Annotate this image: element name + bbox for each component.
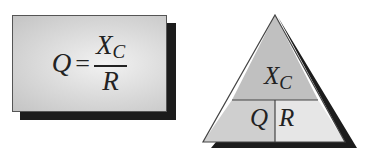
triangle-top-subscript: C (279, 72, 292, 93)
triangle-bottom-left-label: Q (250, 104, 268, 132)
formula-triangle (0, 0, 373, 155)
triangle-top-label: XC (264, 62, 292, 94)
triangle-bottom-right-label: R (279, 104, 294, 132)
